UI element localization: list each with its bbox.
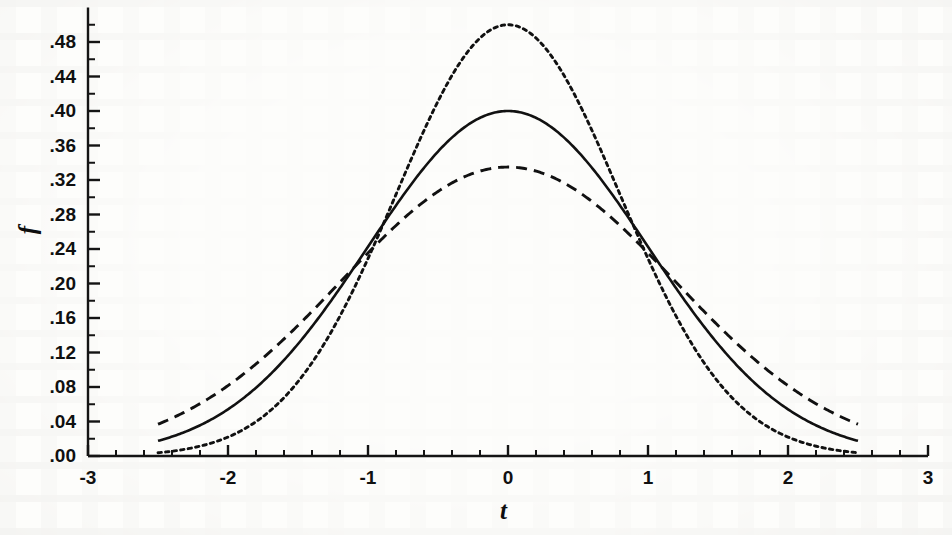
y-tick-label: .48 [10, 31, 76, 53]
y-tick-label: .12 [10, 342, 76, 364]
plot-canvas [0, 0, 952, 535]
curves-group [158, 25, 858, 453]
y-tick-label: .40 [10, 100, 76, 122]
y-tick-label: .08 [10, 376, 76, 398]
x-tick-label: 3 [923, 467, 934, 489]
x-tick-label: -2 [220, 467, 237, 489]
y-tick-label: .32 [10, 169, 76, 191]
y-tick-label: .00 [10, 445, 76, 467]
figure-normal-density-curves: .00.04.08.12.16.20.24.28.32.36.40.44.48 … [0, 0, 952, 535]
y-tick-label: .36 [10, 135, 76, 157]
y-axis-title: f [14, 216, 42, 244]
curve-wide-density [158, 167, 858, 424]
curve-narrow-density [158, 25, 858, 453]
y-tick-label: .16 [10, 307, 76, 329]
curve-standard-normal-density [158, 111, 858, 441]
axes-group [88, 8, 928, 457]
x-tick-label: 0 [503, 467, 514, 489]
x-axis-title: t [500, 497, 507, 525]
x-tick-label: -1 [360, 467, 377, 489]
y-tick-label: .20 [10, 273, 76, 295]
x-tick-label: 1 [643, 467, 654, 489]
y-tick-label: .04 [10, 411, 76, 433]
axis-ticks-group [88, 25, 928, 456]
x-tick-label: 2 [783, 467, 794, 489]
x-tick-label: -3 [80, 467, 97, 489]
y-tick-label: .44 [10, 66, 76, 88]
